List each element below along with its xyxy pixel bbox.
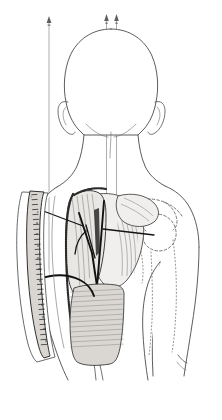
illustration-root (0, 0, 222, 420)
head-outline (64, 29, 157, 135)
medical-illustration (0, 0, 222, 420)
